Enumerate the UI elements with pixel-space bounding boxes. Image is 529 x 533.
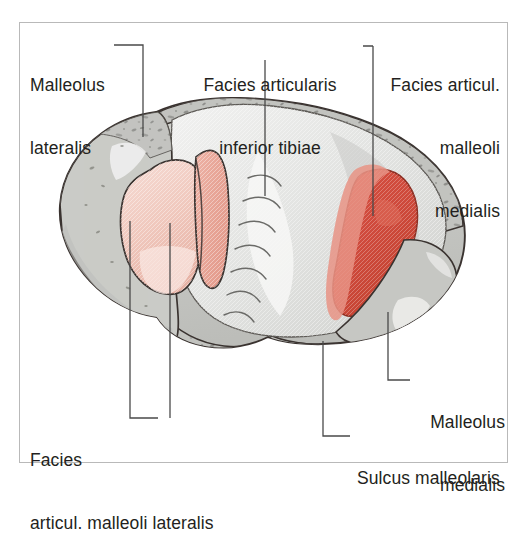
label-facies-articularis-inferior-tibiae: Facies articularis inferior tibiae [190, 33, 350, 201]
label-facies-articul-malleoli-medialis: Facies articul. malleoli medialis [375, 33, 500, 264]
label-malleolus-lateralis: Malleolus lateralis [30, 33, 105, 201]
label-line: Facies articularis [190, 75, 350, 96]
label-line: articul. malleoli lateralis [30, 513, 214, 533]
label-line: lateralis [30, 138, 105, 159]
label-line: malleoli [375, 138, 500, 159]
label-line: Sulcus malleolaris [357, 468, 500, 489]
label-line: Facies [30, 450, 214, 471]
label-line: medialis [375, 201, 500, 222]
label-line: Malleolus [30, 75, 105, 96]
label-sulcus-malleolaris: Sulcus malleolaris [357, 426, 500, 531]
label-line: Facies articul. [375, 75, 500, 96]
label-line: inferior tibiae [190, 138, 350, 159]
label-facies-articul-malleoli-lateralis: Facies articul. malleoli lateralis [30, 408, 214, 533]
